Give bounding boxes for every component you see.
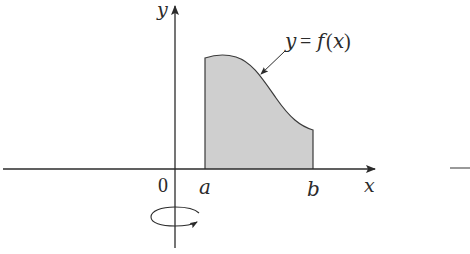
y-axis-label: y: [156, 0, 168, 20]
shaded-region: [205, 55, 313, 169]
svg-text:): ): [344, 30, 351, 53]
svg-text:(: (: [326, 30, 333, 53]
label-pointer-arrow: [261, 51, 285, 74]
b-label: b: [307, 177, 320, 201]
curve-equation-label: y = f ( x ): [284, 29, 351, 53]
svg-text:x: x: [333, 29, 344, 53]
svg-text:y: y: [284, 29, 297, 53]
a-label: a: [199, 175, 211, 199]
origin-label: 0: [158, 174, 168, 196]
x-axis-label: x: [364, 174, 375, 196]
svg-text:=: =: [300, 30, 311, 52]
solid-of-revolution-diagram: y x 0 a b y = f ( x ): [0, 0, 470, 254]
